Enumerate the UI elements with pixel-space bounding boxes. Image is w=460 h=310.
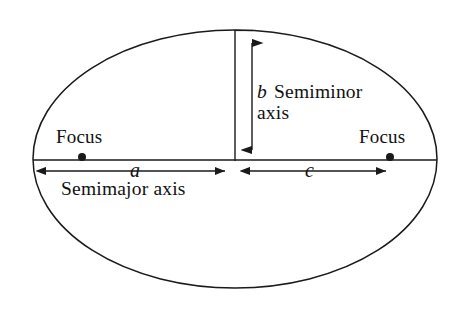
semiminor-axis-line2: axis: [257, 102, 289, 123]
focus-label-right: Focus: [359, 127, 405, 147]
ellipse-diagram: Focus Focus Semimajor axis b Semiminor a…: [0, 0, 460, 310]
focus-point-left: [78, 153, 86, 161]
variable-c-label: c: [305, 160, 314, 181]
semiminor-axis-label: b Semiminor axis: [257, 82, 363, 124]
ellipse-diagram-svg: [0, 0, 460, 310]
focus-point-right: [386, 153, 394, 161]
focus-label-left: Focus: [56, 127, 102, 147]
variable-a-label: a: [130, 160, 140, 181]
semiminor-axis-line1: Semiminor: [274, 81, 362, 102]
semimajor-axis-label: Semimajor axis: [61, 179, 186, 199]
variable-b-label: b: [257, 81, 274, 102]
